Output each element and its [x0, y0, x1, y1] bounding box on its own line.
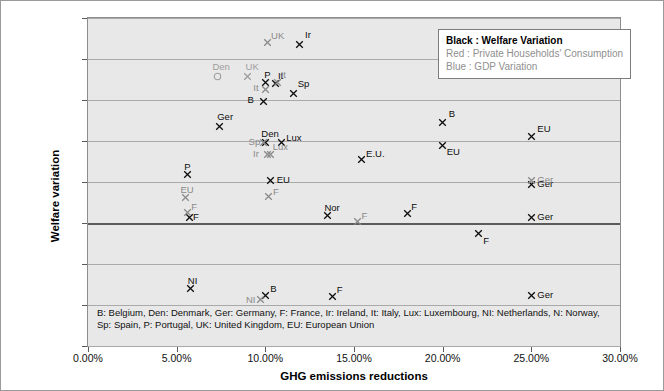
- data-point-label: Nor: [324, 203, 339, 213]
- data-point-marker: [474, 229, 483, 238]
- y-axis-title: Welfare variation: [49, 149, 61, 241]
- data-point-label: P: [184, 162, 190, 172]
- data-point-marker: [527, 213, 536, 222]
- gridline: [88, 264, 620, 265]
- gridline: [88, 141, 620, 142]
- data-point-marker: [256, 295, 265, 304]
- data-point-label: Sp: [249, 137, 261, 147]
- data-point-label: F: [483, 236, 489, 246]
- legend-entry: Blue : GDP Variation: [446, 60, 623, 73]
- x-tick-label: 20.00%: [425, 353, 461, 364]
- data-point-label: F: [337, 285, 343, 295]
- data-point-label: EU: [447, 147, 460, 157]
- data-point-marker: [527, 132, 536, 141]
- gridline: [88, 305, 620, 306]
- data-point-label: F: [191, 202, 197, 212]
- legend: Black : Welfare VariationRed : Private H…: [438, 29, 631, 79]
- x-tick-mark: [177, 347, 178, 352]
- data-point-label: P: [264, 70, 270, 80]
- data-point-label: Ger: [537, 290, 553, 300]
- data-point-label: UK: [271, 31, 284, 41]
- data-point-label: Den: [212, 62, 229, 72]
- country-abbreviations-footnote: B: Belgium, Den: Denmark, Ger: Germany, …: [97, 307, 607, 331]
- data-point-label: Ir: [253, 149, 259, 159]
- data-point-label: Lux: [273, 142, 288, 152]
- footnote-line: Sp: Spain, P: Portugal, UK: United Kingd…: [97, 319, 607, 331]
- data-point-marker: [357, 155, 366, 164]
- gridline: [88, 223, 620, 225]
- gridline: [88, 346, 620, 347]
- x-axis-title: GHG emissions reductions: [87, 370, 621, 382]
- data-point-label: Sp: [298, 79, 310, 89]
- data-point-label: Lux: [286, 133, 301, 143]
- x-tick-mark: [88, 347, 89, 352]
- data-point-marker: [213, 72, 222, 81]
- data-point-marker: [289, 89, 298, 98]
- data-point-label: Ir: [305, 30, 311, 40]
- data-point-marker: [527, 291, 536, 300]
- data-point-label: Den: [261, 129, 278, 139]
- data-point-marker: [263, 150, 272, 159]
- x-tick-label: 15.00%: [336, 353, 372, 364]
- x-tick-mark: [354, 347, 355, 352]
- x-tick-mark: [443, 347, 444, 352]
- data-point-marker: [295, 40, 304, 49]
- data-point-marker: [259, 97, 268, 106]
- data-point-label: NI: [246, 295, 256, 305]
- data-point-label: NI: [188, 276, 198, 286]
- data-point-label: Ger: [537, 212, 553, 222]
- data-point-label: It: [253, 83, 258, 93]
- data-point-label: EU: [277, 175, 290, 185]
- data-point-marker: [243, 72, 252, 81]
- data-point-label: UK: [246, 62, 259, 72]
- data-point-label: F: [411, 202, 417, 212]
- x-tick-label: 30.00%: [602, 353, 638, 364]
- data-point-label: EU: [537, 124, 550, 134]
- x-tick-mark: [265, 347, 266, 352]
- legend-entry: Red : Private Households' Consumption: [446, 47, 623, 60]
- x-tick-mark: [531, 347, 532, 352]
- x-tick-label: 25.00%: [514, 353, 550, 364]
- data-point-marker: [261, 85, 270, 94]
- chart-figure: Welfare variation GHG emissions reductio…: [0, 0, 664, 391]
- data-point-marker: [527, 176, 536, 185]
- data-point-label: Ger: [217, 112, 233, 122]
- data-point-label: B: [248, 95, 254, 105]
- data-point-label: B: [270, 284, 276, 294]
- data-point-label: Ger: [537, 175, 553, 185]
- data-point-label: F: [273, 187, 279, 197]
- data-point-label: F: [362, 211, 368, 221]
- data-point-marker: [261, 138, 270, 147]
- data-point-label: B: [449, 109, 455, 119]
- data-point-marker: [266, 176, 275, 185]
- data-point-label: E.U.: [366, 149, 384, 159]
- data-point-label: EU: [181, 185, 194, 195]
- data-point-marker: [215, 122, 224, 131]
- x-tick-label: 0.00%: [73, 353, 103, 364]
- data-point-marker: [259, 138, 268, 147]
- x-tick-label: 10.00%: [248, 353, 284, 364]
- data-point-label: It: [281, 70, 286, 80]
- gridline: [88, 18, 620, 19]
- legend-entry: Black : Welfare Variation: [446, 34, 623, 47]
- footnote-line: B: Belgium, Den: Denmark, Ger: Germany, …: [97, 307, 607, 319]
- x-tick-label: 5.00%: [162, 353, 192, 364]
- x-tick-mark: [620, 347, 621, 352]
- data-point-marker: [261, 291, 270, 300]
- gridline: [88, 100, 620, 101]
- data-point-marker: [438, 118, 447, 127]
- data-point-label: F: [193, 212, 199, 222]
